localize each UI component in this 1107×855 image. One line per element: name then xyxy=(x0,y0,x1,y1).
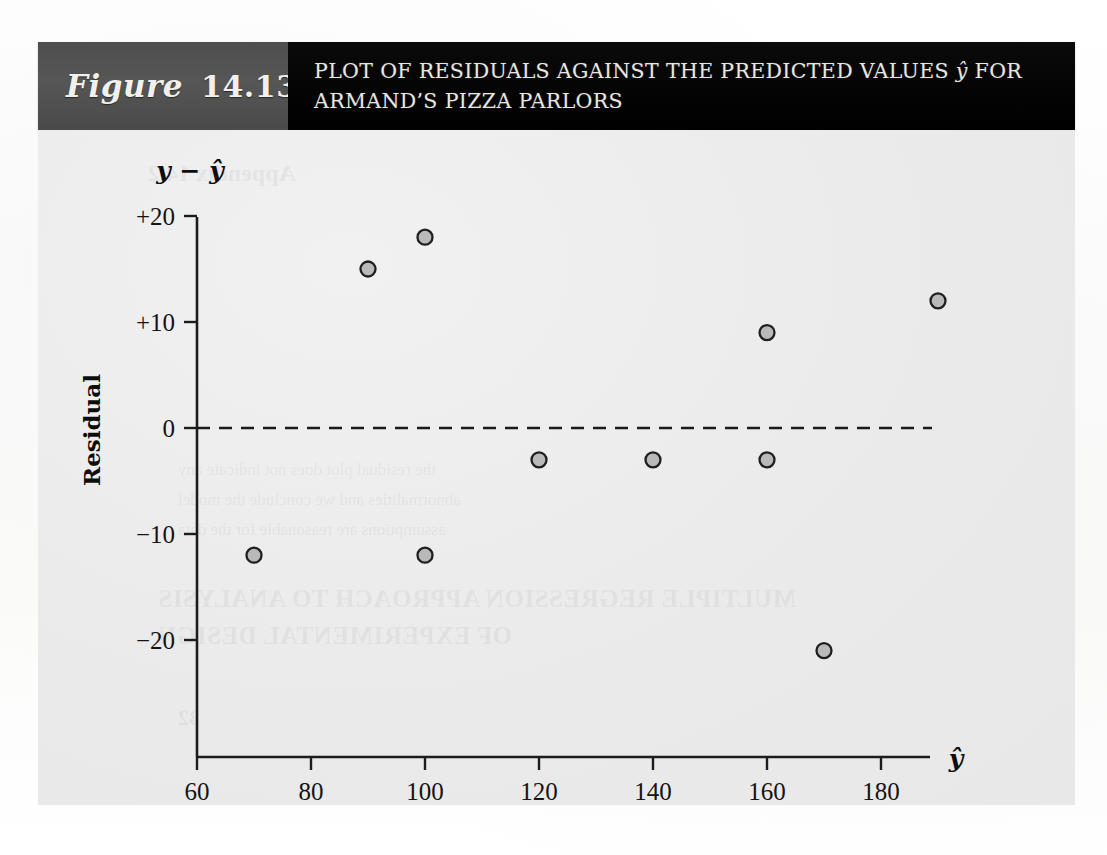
data-point xyxy=(247,548,262,563)
figure-title-text-pre: PLOT OF RESIDUALS AGAINST THE PREDICTED … xyxy=(314,59,956,83)
figure-page: Figure 14.13 PLOT OF RESIDUALS AGAINST T… xyxy=(0,0,1107,855)
data-point xyxy=(646,452,661,467)
y-axis-tick-label: −10 xyxy=(136,521,175,548)
y-axis-symbol-label: y − ŷ xyxy=(155,156,225,185)
x-axis-tick-label: 140 xyxy=(634,778,672,805)
y-axis-tick-label: +10 xyxy=(136,309,175,336)
figure-word: Figure xyxy=(66,68,183,104)
figure-number: 14.13 xyxy=(201,69,288,104)
y-axis-tick-label: 0 xyxy=(163,415,176,442)
x-axis-tick-label: 60 xyxy=(185,778,210,805)
figure-title-line-2: ARMAND’S PIZZA PARLORS xyxy=(314,86,1049,116)
data-point xyxy=(817,643,832,658)
chart-svg: +20+100−10−206080100120140160180y − ŷŷRe… xyxy=(38,130,1075,805)
x-axis-tick-label: 160 xyxy=(748,778,786,805)
y-axis-tick-label: +20 xyxy=(136,203,175,230)
x-axis-tick-label: 80 xyxy=(299,778,324,805)
y-axis-tick-label: −20 xyxy=(136,627,175,654)
scatter-chart: +20+100−10−206080100120140160180y − ŷŷRe… xyxy=(38,130,1075,805)
x-axis-tick-label: 100 xyxy=(406,778,444,805)
x-axis-tick-label: 120 xyxy=(520,778,558,805)
figure-title-box: PLOT OF RESIDUALS AGAINST THE PREDICTED … xyxy=(288,42,1075,130)
figure-header-band: Figure 14.13 PLOT OF RESIDUALS AGAINST T… xyxy=(38,42,1075,130)
figure-title-line-1: PLOT OF RESIDUALS AGAINST THE PREDICTED … xyxy=(314,56,1049,86)
y-axis-title: Residual xyxy=(78,374,105,486)
x-axis-symbol-label: ŷ xyxy=(948,744,965,773)
data-point xyxy=(361,262,376,277)
figure-label-box: Figure 14.13 xyxy=(38,42,288,130)
plot-panel: MULTIPLE REGRESSION APPROACH TO ANALYSIS… xyxy=(38,130,1075,805)
data-point xyxy=(760,325,775,340)
data-point xyxy=(931,293,946,308)
y-hat-symbol: ŷ xyxy=(956,59,968,83)
data-point xyxy=(532,452,547,467)
x-axis-tick-label: 180 xyxy=(862,778,900,805)
data-point xyxy=(760,452,775,467)
data-point xyxy=(418,548,433,563)
data-point xyxy=(418,230,433,245)
figure-title-text-post: FOR xyxy=(968,59,1022,83)
